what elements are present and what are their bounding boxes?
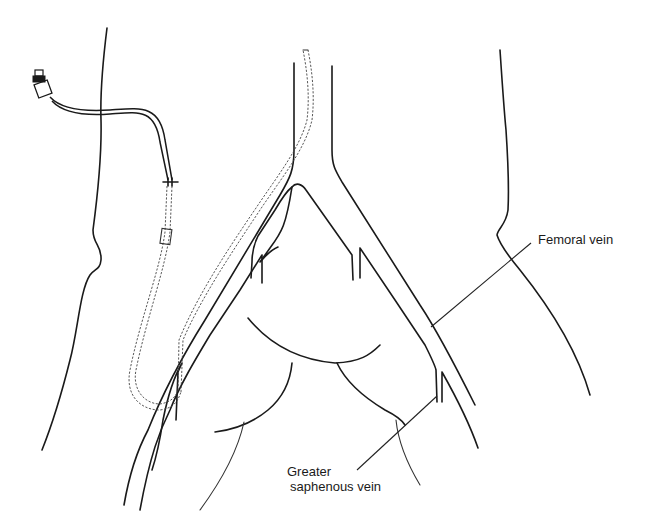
anatomy-illustration [0,0,670,524]
greater-saphenous-vein-label-line1: Greater [287,464,381,479]
right-body-contour [497,50,590,395]
greater-saphenous-vein-label-line2: saphenous vein [287,479,381,494]
vein-bifurcation-apex [260,184,353,280]
left-branch-inner-wall [140,255,262,510]
pelvic-contour-lower-right [337,363,405,425]
catheter-skin-entry [163,178,178,186]
pelvic-contour-center [248,318,380,363]
femoral-vein-leader-line [431,243,531,327]
pelvic-contour-lower-left [215,363,292,432]
greater-saphenous-vein-label: Greater saphenous vein [287,464,381,494]
catheter-hub-icon [33,70,52,98]
right-saphenous-spur [442,372,478,448]
vein-right-outer-wall [332,66,475,405]
catheter-subcutaneous-path-inner [135,186,178,404]
catheter-external-tube [50,97,172,180]
catheter-cuff [160,228,172,244]
saphenous-vein-leader-line [357,396,437,470]
thigh-contour-right [396,420,420,485]
vein-left-outer-wall [124,63,294,505]
catheter-intravascular-path-inner [178,50,308,390]
femoral-vein-label: Femoral vein [538,232,613,247]
thigh-contour-left [200,422,244,510]
